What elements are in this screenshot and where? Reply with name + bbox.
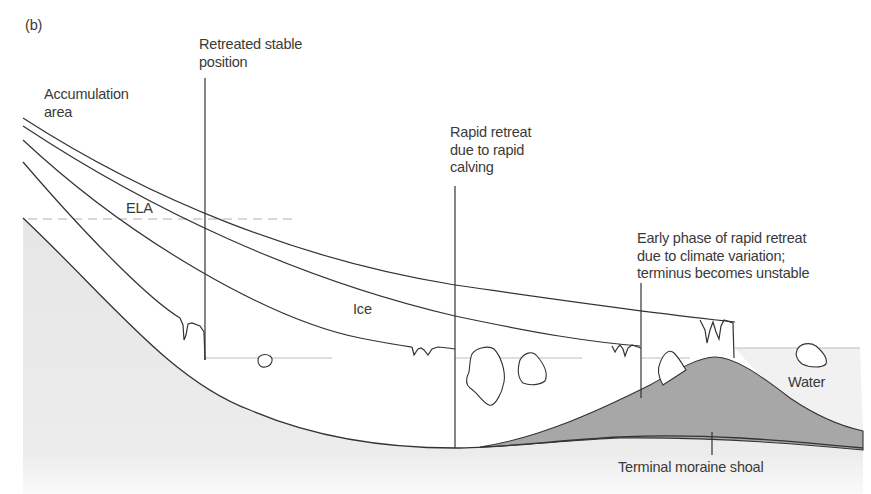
ice-surface-1 xyxy=(23,118,735,322)
terminus-early xyxy=(612,345,641,356)
ice-label: Ice xyxy=(353,301,372,319)
iceberg-2 xyxy=(467,347,505,405)
terminus-calving xyxy=(412,347,455,355)
terminus-stable xyxy=(180,318,205,360)
early-phase-label: Early phase of rapid retreat due to clim… xyxy=(637,230,809,283)
water-label: Water xyxy=(788,374,825,392)
terminus-shoal xyxy=(700,320,734,358)
glacier-retreat-diagram: (b) Accumulation area ELA Retreated stab… xyxy=(0,0,871,494)
accumulation-area-label: Accumulation area xyxy=(44,86,129,121)
retreated-stable-position-label: Retreated stable position xyxy=(199,36,302,71)
panel-label: (b) xyxy=(25,17,42,35)
iceberg-5 xyxy=(796,344,826,367)
iceberg-1 xyxy=(258,355,272,368)
rapid-retreat-calving-label: Rapid retreat due to rapid calving xyxy=(450,124,531,177)
ela-label: ELA xyxy=(126,200,153,218)
terminal-moraine-shoal-label: Terminal moraine shoal xyxy=(618,459,764,477)
